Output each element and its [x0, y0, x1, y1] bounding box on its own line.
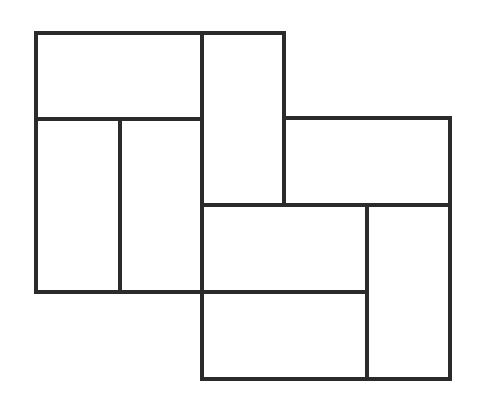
rectangle-tiling-diagram — [0, 0, 479, 418]
background — [0, 0, 479, 418]
